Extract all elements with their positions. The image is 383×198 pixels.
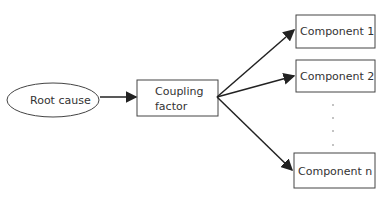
coupling-label-line1: Coupling [155,85,203,98]
component-2-label: Component 2 [300,70,374,83]
root-cause-label: Root cause [30,94,91,107]
component-1-label: Component 1 [300,25,374,38]
ellipsis-dots [332,104,334,146]
component-n-label: Component n [298,165,372,178]
coupling-label-line2: factor [155,100,187,113]
arrow-to-component-n [217,97,292,170]
